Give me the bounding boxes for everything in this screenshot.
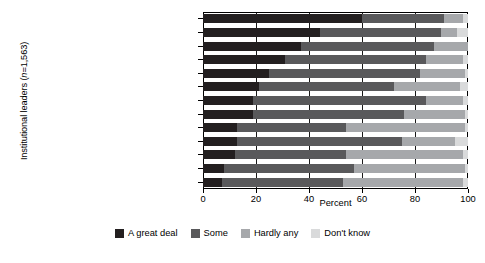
x-tick-80 xyxy=(415,189,416,193)
bar-segment-some xyxy=(237,123,346,132)
bar-segment-some xyxy=(269,69,420,78)
stacked-bar xyxy=(203,178,468,187)
bar-row: Press xyxy=(203,123,468,132)
x-tick-20 xyxy=(256,189,257,193)
legend-label: Don't know xyxy=(324,228,370,238)
legend-label: A great deal xyxy=(128,228,178,238)
bar-segment-hardly-any xyxy=(346,123,465,132)
bar-segment-some xyxy=(237,137,401,146)
legend-item: Some xyxy=(191,228,228,238)
bar-segment-hardly-any xyxy=(444,14,463,23)
bar-segment-some xyxy=(259,82,394,91)
stacked-bar xyxy=(203,42,468,51)
bar-segment-a-great-deal xyxy=(203,164,224,173)
legend-swatch-icon xyxy=(115,229,124,238)
bar-segment-some xyxy=(222,178,344,187)
legend-item: Don't know xyxy=(311,228,370,238)
bar-segment-some xyxy=(253,110,404,119)
y-axis-title: Institutional leaders (n=1,563) xyxy=(19,16,29,186)
bar-segment-hardly-any xyxy=(394,82,460,91)
bar-row: Congress xyxy=(203,178,468,187)
bar-segment-hardly-any xyxy=(354,164,465,173)
bar-segment-some xyxy=(320,28,442,37)
bar-row: Major companies xyxy=(203,96,468,105)
bar-segment-hardly-any xyxy=(404,110,465,119)
stacked-bar xyxy=(203,137,468,146)
bar-segment-a-great-deal xyxy=(203,55,285,64)
stacked-bar-chart: Institutional leaders (n=1,563) Military… xyxy=(0,0,485,263)
legend-swatch-icon xyxy=(191,229,200,238)
stacked-bar xyxy=(203,82,468,91)
bar-segment-hardly-any xyxy=(402,137,455,146)
stacked-bar xyxy=(203,96,468,105)
bar-segment-don-t-know xyxy=(457,28,468,37)
bar-segment-don-t-know xyxy=(463,14,468,23)
bar-segment-hardly-any xyxy=(420,69,465,78)
bar-segment-some xyxy=(224,164,354,173)
bar-segment-don-t-know xyxy=(463,55,468,64)
stacked-bar xyxy=(203,69,468,78)
bar-segment-hardly-any xyxy=(441,28,457,37)
legend-swatch-icon xyxy=(311,229,320,238)
bar-segment-hardly-any xyxy=(346,150,463,159)
bar-segment-a-great-deal xyxy=(203,14,362,23)
stacked-bar xyxy=(203,110,468,119)
stacked-bar xyxy=(203,150,468,159)
bar-segment-hardly-any xyxy=(343,178,462,187)
y-axis-title-n: n xyxy=(19,73,29,78)
bar-segment-don-t-know xyxy=(460,82,468,91)
legend-swatch-icon xyxy=(241,229,250,238)
bar-segment-a-great-deal xyxy=(203,69,269,78)
bar-segment-don-t-know xyxy=(465,69,468,78)
y-axis-title-prefix: Institutional leaders ( xyxy=(19,78,29,160)
bar-segment-don-t-know xyxy=(465,164,468,173)
bar-segment-some xyxy=(285,55,425,64)
bar-row: Executive branch of the federal gov. xyxy=(203,150,468,159)
legend-item: A great deal xyxy=(115,228,178,238)
bar-segment-don-t-know xyxy=(463,96,468,105)
bar-segment-a-great-deal xyxy=(203,137,237,146)
stacked-bar xyxy=(203,28,468,37)
plot-area: MilitaryScientific communityMedicineUS S… xyxy=(203,12,468,189)
bar-segment-don-t-know xyxy=(465,123,468,132)
bar-segment-don-t-know xyxy=(463,150,468,159)
x-tick-60 xyxy=(362,189,363,193)
stacked-bar xyxy=(203,14,468,23)
bar-row: Scientific community xyxy=(203,28,468,37)
x-tick-100 xyxy=(468,189,469,193)
bar-segment-some xyxy=(301,42,434,51)
bar-segment-hardly-any xyxy=(426,55,463,64)
x-axis-title: Percent xyxy=(203,198,468,208)
chart-legend: A great dealSomeHardly anyDon't know xyxy=(0,228,485,238)
bar-segment-a-great-deal xyxy=(203,123,237,132)
bar-row: Education xyxy=(203,69,468,78)
bar-segment-a-great-deal xyxy=(203,42,301,51)
bar-segment-a-great-deal xyxy=(203,28,320,37)
legend-item: Hardly any xyxy=(241,228,298,238)
bar-segment-some xyxy=(253,96,425,105)
bar-segment-a-great-deal xyxy=(203,96,253,105)
bar-segment-a-great-deal xyxy=(203,150,235,159)
x-tick-40 xyxy=(309,189,310,193)
bar-row: US Supreme Court xyxy=(203,55,468,64)
bar-row: Medicine xyxy=(203,42,468,51)
stacked-bar xyxy=(203,123,468,132)
bar-segment-hardly-any xyxy=(434,42,468,51)
legend-label: Hardly any xyxy=(254,228,298,238)
bar-row: Military xyxy=(203,14,468,23)
x-tick-0 xyxy=(203,189,204,193)
bar-segment-some xyxy=(235,150,346,159)
bar-segment-a-great-deal xyxy=(203,178,222,187)
bar-row: Banks & financial institutions xyxy=(203,110,468,119)
bar-segment-hardly-any xyxy=(426,96,463,105)
bar-segment-don-t-know xyxy=(463,178,468,187)
legend-label: Some xyxy=(204,228,228,238)
bar-row: Organized religion xyxy=(203,82,468,91)
bar-segment-don-t-know xyxy=(465,110,468,119)
bar-row: Organized labor xyxy=(203,137,468,146)
bar-segment-some xyxy=(362,14,444,23)
bar-row: Television xyxy=(203,164,468,173)
y-axis-title-suffix: =1,563) xyxy=(19,42,29,73)
bar-segment-a-great-deal xyxy=(203,110,253,119)
bar-segment-don-t-know xyxy=(455,137,468,146)
